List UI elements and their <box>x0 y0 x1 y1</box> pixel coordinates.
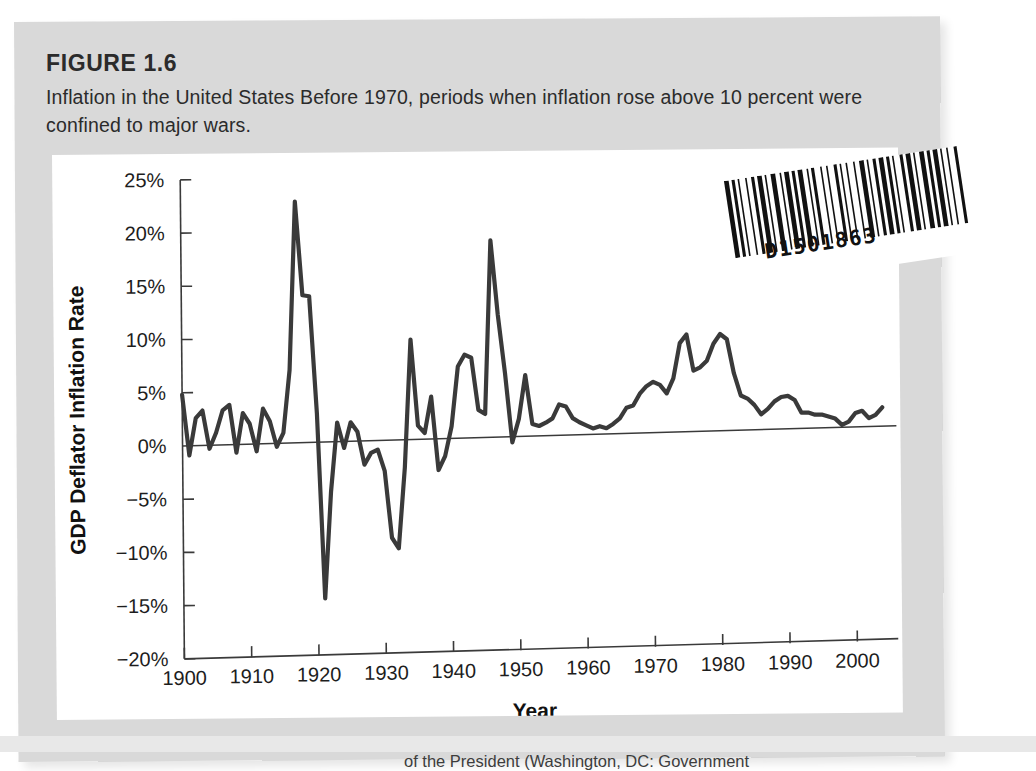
zero-reference-line <box>182 426 896 446</box>
x-tick-label: 1900 <box>162 667 207 689</box>
page-bottom-band <box>0 736 1036 752</box>
y-tick-label: 25% <box>124 169 164 191</box>
x-axis-tick-labels: 1900191019201930194019501960197019801990… <box>162 649 880 689</box>
x-tick-label: 1940 <box>431 660 476 682</box>
x-axis-ticks <box>184 630 857 658</box>
y-tick-label: −20% <box>117 648 169 670</box>
x-tick-label: 1990 <box>768 651 813 673</box>
x-tick-label: 1980 <box>701 653 746 675</box>
x-tick-label: 1930 <box>364 661 409 683</box>
figure-label: FIGURE 1.6 <box>46 50 177 77</box>
x-tick-label: 1920 <box>297 663 342 685</box>
barcode-bar <box>953 146 968 224</box>
y-tick-label: 0% <box>138 435 167 457</box>
x-tick-label: 1910 <box>230 665 275 687</box>
x-tick-label: 2000 <box>835 649 880 671</box>
y-tick-label: 10% <box>125 329 165 351</box>
y-axis-title: GDP Deflator Inflation Rate <box>64 286 89 555</box>
x-tick-label: 1950 <box>499 658 544 680</box>
x-tick-label: 1970 <box>633 654 678 676</box>
y-tick-label: −10% <box>116 542 168 564</box>
y-tick-label: −15% <box>116 595 168 617</box>
barcode-bar <box>745 178 758 255</box>
y-tick-label: 15% <box>125 275 165 297</box>
y-tick-label: 5% <box>137 382 166 404</box>
y-tick-label: 20% <box>125 222 165 244</box>
figure-caption: Inflation in the United States Before 19… <box>46 84 886 139</box>
y-tick-label: −5% <box>126 488 167 510</box>
y-axis-tick-labels: 25%20%15%10%5%0%−5%−10%−15%−20% <box>112 169 168 670</box>
x-tick-label: 1960 <box>566 656 611 678</box>
source-note: of the President (Washington, DC: Govern… <box>404 752 1036 771</box>
